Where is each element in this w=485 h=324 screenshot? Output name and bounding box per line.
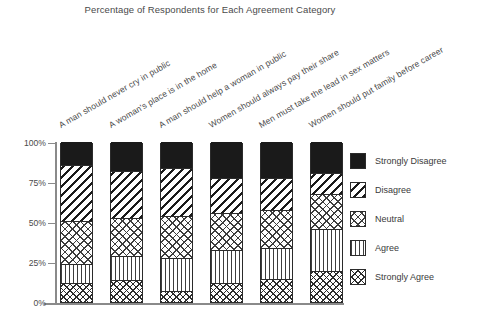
bar-segment[interactable] xyxy=(161,259,192,293)
bar-segment[interactable] xyxy=(261,142,292,179)
legend-swatch-icon xyxy=(350,153,366,169)
bar-segment[interactable] xyxy=(211,284,242,302)
bar-segment[interactable] xyxy=(211,251,242,285)
y-axis-tick-mark xyxy=(48,223,56,224)
bar-segment[interactable] xyxy=(61,265,92,284)
x-axis-line xyxy=(44,303,344,305)
legend-item[interactable]: Strongly Disagree xyxy=(350,146,485,175)
bar-segment[interactable] xyxy=(111,142,142,172)
bar-segment[interactable] xyxy=(161,292,192,302)
chart-legend: Strongly DisagreeDisagreeNeutralAgreeStr… xyxy=(350,146,485,291)
bar-segment[interactable] xyxy=(311,230,342,272)
legend-swatch-icon xyxy=(350,240,366,256)
legend-item[interactable]: Disagree xyxy=(350,175,485,204)
legend-swatch-icon xyxy=(350,182,366,198)
bar-segment[interactable] xyxy=(61,284,92,302)
y-axis-tick-mark xyxy=(48,143,56,144)
y-axis-tick-label: 75% xyxy=(2,178,46,188)
legend-label: Neutral xyxy=(375,214,404,224)
category-axis-labels: A man should never cry in publicA woman'… xyxy=(0,0,485,140)
stacked-bar[interactable] xyxy=(310,143,343,303)
y-axis-tick-mark xyxy=(48,183,56,184)
bar-segment[interactable] xyxy=(211,179,242,214)
legend-label: Strongly Disagree xyxy=(375,156,447,166)
legend-label: Agree xyxy=(375,243,399,253)
legend-item[interactable]: Strongly Agree xyxy=(350,262,485,291)
y-axis-tick-mark xyxy=(48,303,56,304)
bar-segment[interactable] xyxy=(311,174,342,195)
bar-segment[interactable] xyxy=(111,281,142,302)
bar-segment[interactable] xyxy=(161,217,192,259)
stacked-bar[interactable] xyxy=(60,143,93,303)
plot-area xyxy=(56,143,344,303)
bar-segment[interactable] xyxy=(61,222,92,265)
stacked-bar[interactable] xyxy=(160,143,193,303)
y-axis-tick-label: 0% xyxy=(2,298,46,308)
y-axis-tick-label: 25% xyxy=(2,258,46,268)
bar-segment[interactable] xyxy=(261,280,292,302)
bar-segment[interactable] xyxy=(211,214,242,251)
stacked-bar[interactable] xyxy=(210,143,243,303)
bar-segment[interactable] xyxy=(61,166,92,222)
bar-segment[interactable] xyxy=(311,142,342,174)
stacked-bar[interactable] xyxy=(110,143,143,303)
bar-segment[interactable] xyxy=(161,169,192,217)
legend-label: Disagree xyxy=(375,185,411,195)
bar-segment[interactable] xyxy=(311,272,342,302)
bar-segment[interactable] xyxy=(211,142,242,179)
stacked-bar[interactable] xyxy=(260,143,293,303)
bar-segment[interactable] xyxy=(311,195,342,230)
bar-segment[interactable] xyxy=(111,219,142,257)
bar-segment[interactable] xyxy=(261,249,292,279)
bar-segment[interactable] xyxy=(261,179,292,211)
bar-segment[interactable] xyxy=(161,142,192,169)
bar-segment[interactable] xyxy=(111,172,142,218)
legend-item[interactable]: Neutral xyxy=(350,204,485,233)
y-axis-tick-label: 100% xyxy=(2,138,46,148)
chart-root: Percentage of Respondents for Each Agree… xyxy=(0,0,485,324)
legend-swatch-icon xyxy=(350,211,366,227)
legend-item[interactable]: Agree xyxy=(350,233,485,262)
bar-segment[interactable] xyxy=(111,257,142,281)
legend-label: Strongly Agree xyxy=(375,272,434,282)
y-axis-tick-label: 50% xyxy=(2,218,46,228)
legend-swatch-icon xyxy=(350,269,366,285)
bar-segment[interactable] xyxy=(261,211,292,249)
bar-segment[interactable] xyxy=(61,142,92,166)
y-axis-tick-mark xyxy=(48,263,56,264)
